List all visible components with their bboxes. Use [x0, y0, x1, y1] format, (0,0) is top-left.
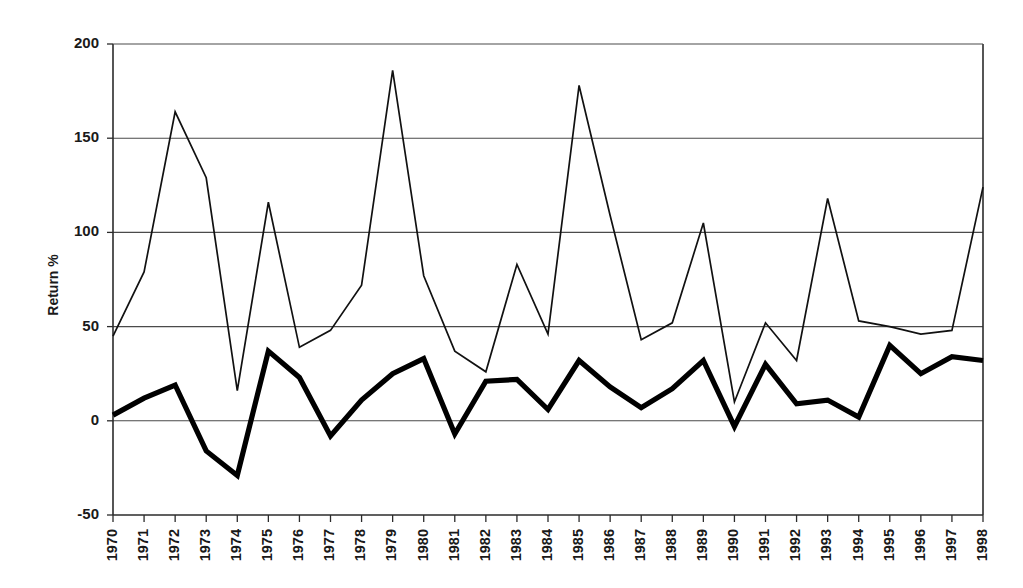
x-tick-label: 1978 [352, 529, 368, 561]
y-tick-label: 0 [91, 411, 99, 428]
y-tick-label: 100 [74, 222, 99, 239]
x-tick-label: 1970 [104, 529, 120, 561]
x-tick-label: 1996 [912, 529, 928, 561]
x-tick-label: 1980 [415, 529, 431, 561]
x-tick-label: 1975 [259, 529, 275, 561]
line-chart: 200150100500-50 197019711972197319741975… [0, 0, 1023, 588]
x-tick-label: 1993 [818, 529, 834, 561]
x-tick-label: 1983 [508, 529, 524, 561]
x-tick-label: 1995 [881, 529, 897, 561]
x-tick-label: 1992 [787, 529, 803, 561]
x-tick-label: 1997 [943, 529, 959, 561]
x-tick-label: 1998 [974, 529, 990, 561]
x-tick-label: 1990 [725, 529, 741, 561]
x-tick-label: 1987 [632, 529, 648, 561]
x-tick-label: 1986 [601, 529, 617, 561]
x-tick-label: 1982 [477, 529, 493, 561]
y-tick-label: 200 [74, 34, 99, 51]
x-tick-labels-group: 1970197119721973197419751976197719781979… [104, 529, 990, 561]
y-tick-label: 50 [82, 317, 99, 334]
x-tick-label: 1984 [539, 529, 555, 561]
y-tick-labels-group: 200150100500-50 [74, 34, 99, 522]
series-line-bold [113, 345, 983, 475]
chart-container: 200150100500-50 197019711972197319741975… [0, 0, 1023, 588]
x-tick-label: 1989 [694, 529, 710, 561]
y-tick-marks-group [107, 44, 113, 515]
y-tick-label: 150 [74, 128, 99, 145]
x-tick-label: 1972 [166, 529, 182, 561]
x-tick-label: 1977 [321, 529, 337, 561]
x-tick-label: 1985 [570, 529, 586, 561]
y-tick-label: -50 [77, 505, 99, 522]
x-tick-label: 1973 [197, 529, 213, 561]
series-line-thin [113, 70, 983, 402]
x-tick-label: 1976 [290, 529, 306, 561]
x-tick-label: 1979 [383, 529, 399, 561]
gridlines-group [113, 138, 983, 421]
x-tick-label: 1994 [850, 529, 866, 561]
x-tick-marks-group [113, 515, 983, 522]
x-tick-label: 1991 [756, 529, 772, 561]
x-tick-label: 1974 [228, 529, 244, 561]
x-tick-label: 1971 [135, 529, 151, 561]
x-tick-label: 1981 [446, 529, 462, 561]
y-axis-title: Return % [45, 254, 61, 316]
x-tick-label: 1988 [663, 529, 679, 561]
